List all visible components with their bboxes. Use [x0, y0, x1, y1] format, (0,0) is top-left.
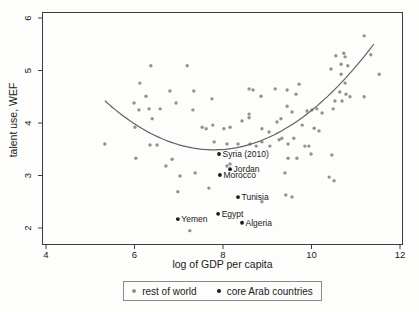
- scatter-point-rest-of-world: [228, 162, 231, 165]
- y-axis-title: talent use, WEF: [7, 83, 19, 158]
- y-tick-label: 3: [22, 173, 33, 178]
- legend-item-core-arab-countries: core Arab countries: [217, 286, 313, 297]
- scatter-point-rest-of-world: [329, 67, 332, 70]
- scatter-point-rest-of-world: [144, 95, 147, 98]
- legend-marker-rest-of-world-icon: [132, 289, 136, 293]
- scatter-point-rest-of-world: [267, 130, 270, 133]
- x-axis-title: log of GDP per capita: [42, 258, 403, 270]
- scatter-point-rest-of-world: [174, 101, 177, 104]
- scatter-point-core-arab: [176, 217, 180, 221]
- country-label: Morocco: [223, 170, 256, 180]
- scatter-point-rest-of-world: [348, 95, 351, 98]
- scatter-point-rest-of-world: [346, 64, 349, 67]
- scatter-point-rest-of-world: [301, 123, 304, 126]
- scatter-point-rest-of-world: [247, 87, 250, 90]
- scatter-point-rest-of-world: [331, 107, 334, 110]
- scatter-point-rest-of-world: [210, 97, 213, 100]
- scatter-point-rest-of-world: [362, 34, 365, 37]
- scatter-point-rest-of-world: [305, 109, 308, 112]
- scatter-point-rest-of-world: [212, 140, 215, 143]
- legend-marker-core-arab-countries-icon: [217, 289, 221, 293]
- scatter-point-rest-of-world: [283, 171, 286, 174]
- scatter-point-core-arab: [217, 152, 221, 156]
- scatter-point-rest-of-world: [168, 89, 171, 92]
- scatter-point-rest-of-world: [134, 156, 137, 159]
- scatter-point-rest-of-world: [279, 117, 282, 120]
- scatter-point-rest-of-world: [149, 64, 152, 67]
- scatter-point-rest-of-world: [285, 88, 288, 91]
- scatter-point-rest-of-world: [268, 144, 271, 147]
- scatter-point-rest-of-world: [211, 123, 214, 126]
- country-label: Tunisia: [242, 192, 269, 202]
- scatter-point-rest-of-world: [132, 101, 135, 104]
- country-label: Yemen: [181, 214, 207, 224]
- scatter-point-rest-of-world: [275, 120, 278, 123]
- scatter-point-rest-of-world: [158, 107, 161, 110]
- scatter-point-rest-of-world: [164, 164, 167, 167]
- legend: rest of world core Arab countries: [123, 281, 322, 301]
- scatter-point-rest-of-world: [147, 107, 150, 110]
- scatter-point-rest-of-world: [343, 81, 346, 84]
- scatter-point-rest-of-world: [290, 195, 293, 198]
- scatter-point-rest-of-world: [240, 119, 243, 122]
- scatter-point-rest-of-world: [274, 87, 277, 90]
- scatter-point-rest-of-world: [148, 143, 151, 146]
- y-tick-label: 2: [22, 225, 33, 230]
- scatter-point-rest-of-world: [369, 53, 372, 56]
- y-tick-label: 4: [22, 120, 33, 125]
- scatter-point-rest-of-world: [297, 82, 300, 85]
- scatter-point-rest-of-world: [259, 95, 262, 98]
- scatter-point-rest-of-world: [170, 158, 173, 161]
- scatter-point-rest-of-world: [295, 156, 298, 159]
- scatter-point-rest-of-world: [338, 90, 341, 93]
- scatter-point-core-arab: [218, 173, 222, 177]
- scatter-point-rest-of-world: [185, 64, 188, 67]
- scatter-point-rest-of-world: [339, 62, 342, 65]
- scatter-point-rest-of-world: [192, 89, 195, 92]
- scatter-point-rest-of-world: [207, 186, 210, 189]
- country-label: Syria (2010): [223, 149, 269, 159]
- scatter-point-rest-of-world: [284, 193, 287, 196]
- scatter-point-rest-of-world: [342, 51, 345, 54]
- scatter-point-rest-of-world: [204, 127, 207, 130]
- scatter-point-rest-of-world: [247, 116, 250, 119]
- scatter-point-rest-of-world: [378, 72, 381, 75]
- scatter-point-rest-of-world: [320, 111, 323, 114]
- scatter-point-rest-of-world: [333, 99, 336, 102]
- scatter-point-core-arab: [216, 212, 220, 216]
- scatter-point-rest-of-world: [334, 54, 337, 57]
- country-label: Algeria: [246, 218, 273, 228]
- y-tick-label: 5: [22, 68, 33, 73]
- scatter-point-rest-of-world: [285, 105, 288, 108]
- scatter-point-rest-of-world: [328, 175, 331, 178]
- scatter-point-rest-of-world: [191, 108, 194, 111]
- scatter-point-rest-of-world: [344, 92, 347, 95]
- scatter-point-rest-of-world: [294, 92, 297, 95]
- country-label: Egypt: [222, 209, 244, 219]
- scatter-point-rest-of-world: [254, 144, 257, 147]
- scatter-point-rest-of-world: [286, 142, 289, 145]
- scatter-point-core-arab: [240, 221, 244, 225]
- scatter-point-rest-of-world: [247, 112, 250, 115]
- scatter-point-rest-of-world: [137, 108, 140, 111]
- y-tick-label: 6: [22, 15, 33, 20]
- scatter-point-rest-of-world: [133, 126, 136, 129]
- scatter-point-rest-of-world: [228, 126, 231, 129]
- scatter-point-rest-of-world: [340, 99, 343, 102]
- scatter-point-rest-of-world: [225, 142, 228, 145]
- scatter-point-rest-of-world: [178, 174, 181, 177]
- scatter-point-rest-of-world: [312, 127, 315, 130]
- scatter-plot-figure: 468101223456Syria (2010)JordanMoroccoTun…: [0, 0, 419, 312]
- scatter-point-rest-of-world: [280, 137, 283, 140]
- scatter-point-rest-of-world: [201, 126, 204, 129]
- scatter-point-rest-of-world: [303, 144, 306, 147]
- legend-label-core-arab-countries: core Arab countries: [227, 286, 313, 297]
- scatter-point-core-arab: [236, 195, 240, 199]
- scatter-point-rest-of-world: [317, 129, 320, 132]
- scatter-point-rest-of-world: [362, 95, 365, 98]
- scatter-point-rest-of-world: [176, 190, 179, 193]
- scatter-point-rest-of-world: [103, 142, 106, 145]
- scatter-point-rest-of-world: [339, 72, 342, 75]
- scatter-point-rest-of-world: [307, 144, 310, 147]
- scatter-point-rest-of-world: [292, 137, 295, 140]
